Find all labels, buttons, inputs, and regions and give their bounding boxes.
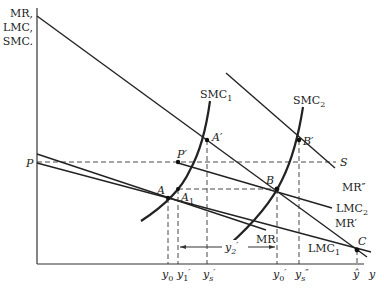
tick-y1-prime: y1′	[176, 268, 190, 283]
tick-y-hat: ŷ	[352, 268, 360, 281]
tick-ys-double-prime: ys″	[294, 268, 309, 283]
x-axis-label: y	[368, 268, 376, 281]
label-C: C	[358, 235, 367, 248]
label-B-prime: B′	[302, 135, 314, 148]
point-A-prime	[205, 138, 209, 142]
mr-double-prime-curve	[226, 73, 335, 168]
lmc2-curve	[178, 163, 332, 208]
mr-label: MR	[256, 233, 276, 246]
label-A1: A1	[180, 191, 194, 206]
point-C	[355, 248, 360, 253]
smc2-label: SMC2	[293, 94, 325, 109]
y2p-arrowhead-left	[180, 245, 186, 249]
lmc1-curve	[37, 163, 371, 252]
economics-cost-revenue-diagram: MR, LMC, SMC. P S MR′ MR″ LMC2 MR LMC1 S…	[0, 0, 384, 289]
label-P-prime: P′	[176, 148, 187, 161]
mr-double-prime-label: MR″	[342, 181, 366, 194]
label-B: B	[265, 174, 274, 187]
label-A: A	[156, 184, 165, 197]
tick-y0: y0	[161, 268, 173, 283]
label-A-prime: A′	[211, 131, 223, 144]
point-B	[275, 187, 280, 192]
y-axis-label-line1: MR,	[10, 7, 33, 20]
y-axis-label-line3: SMC.	[3, 35, 33, 48]
price-label: P	[25, 157, 34, 170]
lmc2-label: LMC2	[336, 202, 368, 217]
tick-ys-prime: ys′	[202, 268, 215, 283]
mr-prime-label: MR′	[335, 217, 358, 230]
smc1-curve	[141, 101, 210, 221]
smc1-label: SMC1	[200, 88, 232, 103]
point-A	[166, 196, 170, 200]
y2p-label: y2′	[224, 241, 238, 256]
point-B-prime	[297, 138, 301, 142]
y-axis-label-line2: LMC,	[3, 21, 33, 34]
tick-y0-prime: y0′	[272, 268, 286, 283]
point-A1	[176, 187, 180, 191]
mr-curve	[37, 154, 266, 230]
lmc1-label: LMC1	[308, 242, 340, 257]
supply-label: S	[340, 156, 348, 169]
